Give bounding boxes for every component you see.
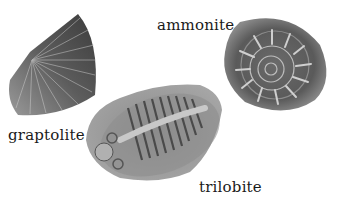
graptolite-shell-image bbox=[9, 14, 96, 115]
graptolite-label: graptolite bbox=[8, 126, 85, 144]
ammonite-label: ammonite bbox=[157, 16, 234, 34]
trilobite-label: trilobite bbox=[199, 178, 262, 196]
fossil-illustration: graptolite ammonite trilobite bbox=[0, 0, 342, 209]
ammonite-image bbox=[224, 18, 326, 110]
trilobite-image bbox=[86, 78, 231, 192]
